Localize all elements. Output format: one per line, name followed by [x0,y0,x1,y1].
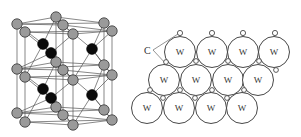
w-label: W [239,47,248,57]
w-label: W [160,75,169,85]
w-label: W [208,47,217,57]
w-label: W [238,103,247,113]
crystal-structure-figure: C [0,0,301,137]
w-label: W [270,47,279,57]
w-label: W [143,103,152,113]
w-label: W [175,103,184,113]
tungsten-carbide-packing-diagram: C [132,30,290,123]
w-label: W [192,75,201,85]
w-label: W [254,75,263,85]
carbon-label: C [144,45,151,56]
w-label: W [176,47,185,57]
w-label: W [224,75,233,85]
w-label: W [207,103,216,113]
